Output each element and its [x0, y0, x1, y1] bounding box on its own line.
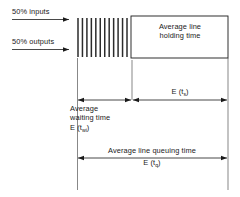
label-inputs: 50% inputs — [12, 7, 50, 16]
queuing-symbol: E (t — [143, 158, 155, 167]
waiting-line1: Average — [70, 104, 98, 113]
waiting-line2: waiting time — [70, 113, 110, 122]
waiting-symbol-close: ) — [87, 123, 90, 132]
queue-hatch — [78, 18, 127, 57]
label-queuing-time-symbol: E (tq) — [143, 158, 160, 170]
holding-symbol: E (t — [171, 87, 183, 96]
label-holding-time-box: Average line holding time — [140, 22, 220, 41]
holding-box-line2: holding time — [159, 31, 200, 40]
label-waiting-time-symbol: E (twi) — [70, 123, 89, 135]
holding-box-line1: Average line — [159, 22, 201, 31]
label-holding-time-symbol: E (ts) — [171, 87, 188, 99]
label-waiting-time: Average waiting time — [70, 104, 132, 123]
queuing-symbol-close: ) — [158, 158, 161, 167]
holding-symbol-close: ) — [186, 87, 189, 96]
waiting-symbol: E (t — [70, 123, 82, 132]
label-outputs: 50% outputs — [12, 37, 54, 46]
label-queuing-time-caption: Average line queuing time — [108, 146, 196, 155]
